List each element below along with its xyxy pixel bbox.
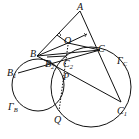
label-P: P <box>62 71 69 82</box>
label-C: C <box>98 43 105 54</box>
label-C2: C2 <box>63 58 74 70</box>
label-A: A <box>76 1 84 12</box>
label-B: B <box>30 48 36 59</box>
line-AC1 <box>80 11 121 102</box>
label-Q: Q <box>54 114 62 125</box>
label-gamma-b: ΓB <box>7 101 18 113</box>
line-AB <box>37 11 80 56</box>
label-B2: B2 <box>45 58 55 70</box>
diagram-canvas: A O B C B1 B2 C2 P Q C1 ΓB ΓC <box>0 0 139 139</box>
label-gamma-c: ΓC <box>116 55 128 67</box>
label-B1: B1 <box>7 67 16 79</box>
geometry-diagram: A O B C B1 B2 C2 P Q C1 ΓB ΓC <box>0 0 139 139</box>
line-B2-C2 <box>47 56 66 57</box>
label-O: O <box>64 35 71 46</box>
right-angle-mark-1 <box>59 33 61 37</box>
